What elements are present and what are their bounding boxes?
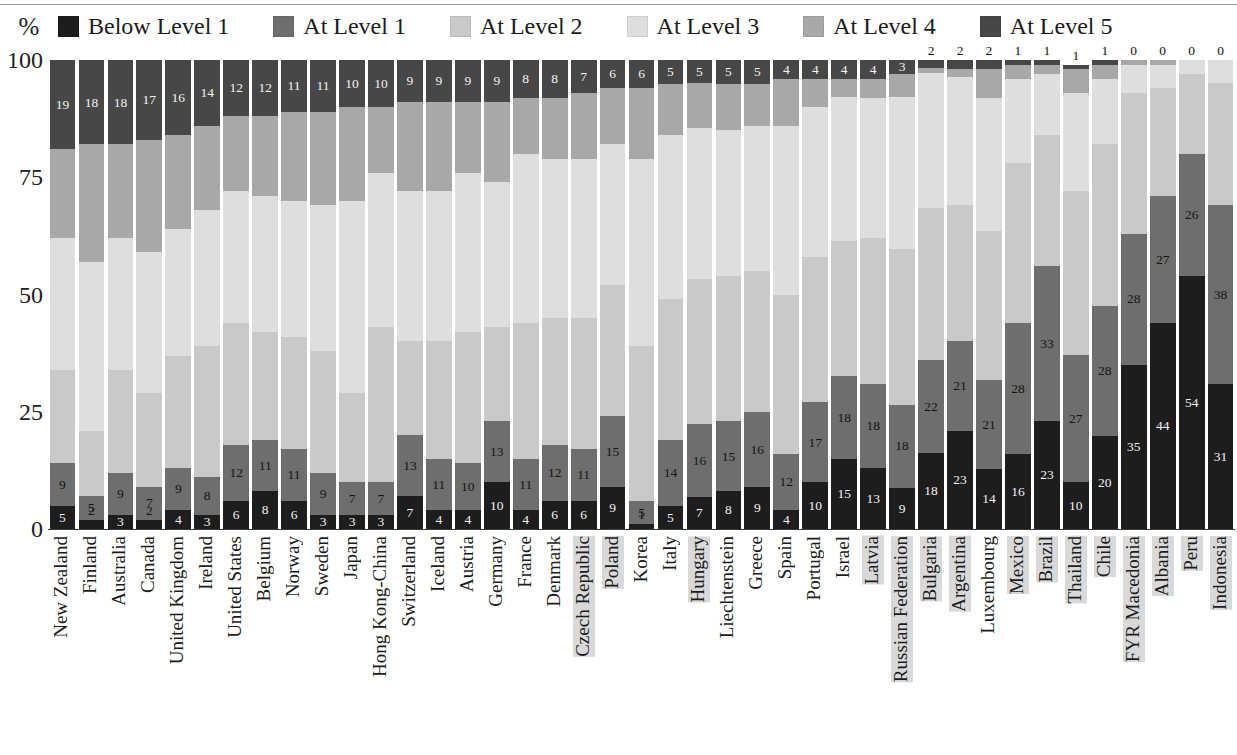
y-axis-tick-100: 100 xyxy=(7,48,43,72)
x-axis-label-cell[interactable]: United States xyxy=(223,534,249,749)
x-axis-label-cell[interactable]: Iceland xyxy=(426,534,452,749)
x-axis-label-cell[interactable]: Czech Republic xyxy=(571,534,597,749)
bar-column[interactable]: 9104 xyxy=(455,60,481,529)
x-axis-label-cell[interactable]: Mexico xyxy=(1005,534,1031,749)
bar-column[interactable]: 5145 xyxy=(658,60,684,529)
bar-column[interactable]: 6159 xyxy=(600,60,626,529)
bar-segment xyxy=(831,97,857,241)
bar-segment: 12 xyxy=(223,445,249,501)
bar-column[interactable]: 1995 xyxy=(50,60,76,529)
bar-segment xyxy=(629,159,655,347)
bar-column[interactable]: 12816 xyxy=(1005,60,1031,529)
bar-column[interactable]: 4124 xyxy=(773,60,799,529)
bar-value-label: 7 xyxy=(378,492,385,506)
bar-column[interactable]: 5169 xyxy=(744,60,770,529)
bar-column[interactable]: 22218 xyxy=(918,60,944,529)
x-axis-label-cell[interactable]: Argentina xyxy=(947,534,973,749)
x-axis-label-cell[interactable]: Albania xyxy=(1150,534,1176,749)
x-axis-label-cell[interactable]: Thailand xyxy=(1063,534,1089,749)
x-axis-label-text: Russian Federation xyxy=(891,536,913,682)
bar-column[interactable]: 9137 xyxy=(397,60,423,529)
bar-column[interactable]: 12118 xyxy=(252,60,278,529)
bar-column[interactable]: 02654 xyxy=(1179,60,1205,529)
bar-column[interactable]: 22114 xyxy=(976,60,1002,529)
legend-item-at-level-1[interactable]: At Level 1 xyxy=(273,14,406,38)
bar-segment: 12 xyxy=(223,60,249,116)
x-axis-label-cell[interactable]: New Zealand xyxy=(50,534,76,749)
bar-segment: 14 xyxy=(658,440,684,506)
bar-column[interactable]: 13323 xyxy=(1034,60,1060,529)
bar-column[interactable]: 12710 xyxy=(1063,60,1089,529)
bar-column[interactable]: 7116 xyxy=(571,60,597,529)
bar-column[interactable]: 9114 xyxy=(426,60,452,529)
legend-item-at-level-3[interactable]: At Level 3 xyxy=(627,14,760,38)
bar-column[interactable]: 651 xyxy=(629,60,655,529)
bar-column[interactable]: 41710 xyxy=(802,60,828,529)
bar-column[interactable]: 03831 xyxy=(1208,60,1234,529)
bar-column[interactable]: 1193 xyxy=(310,60,336,529)
x-axis-label-cell[interactable]: Poland xyxy=(600,534,626,749)
x-axis-label-cell[interactable]: Norway xyxy=(281,534,307,749)
x-axis-label-cell[interactable]: Germany xyxy=(484,534,510,749)
legend-item-below-level-1[interactable]: Below Level 1 xyxy=(58,14,229,38)
bar-value-label: 23 xyxy=(1040,468,1054,482)
x-axis-label-cell[interactable]: United Kingdom xyxy=(165,534,191,749)
bar-column[interactable]: 1893 xyxy=(108,60,134,529)
x-axis-label-cell[interactable]: Belgium xyxy=(252,534,278,749)
legend-item-at-level-2[interactable]: At Level 2 xyxy=(450,14,583,38)
x-axis-label-cell[interactable]: Luxembourg xyxy=(976,534,1002,749)
x-axis-label-cell[interactable]: Finland xyxy=(79,534,105,749)
x-axis-label-cell[interactable]: Switzerland xyxy=(397,534,423,749)
x-axis-label-cell[interactable]: Korea xyxy=(629,534,655,749)
x-axis-label-cell[interactable]: FYR Macedonia xyxy=(1121,534,1147,749)
bar-column[interactable]: 22123 xyxy=(947,60,973,529)
x-axis-label-cell[interactable]: Russian Federation xyxy=(889,534,915,749)
bar-column[interactable]: 1073 xyxy=(339,60,365,529)
bar-column[interactable]: 1772 xyxy=(136,60,162,529)
bar-column[interactable]: 8114 xyxy=(513,60,539,529)
x-axis-label-cell[interactable]: France xyxy=(513,534,539,749)
x-axis-label-cell[interactable]: Chile xyxy=(1092,534,1118,749)
x-axis-label-cell[interactable]: Indonesia xyxy=(1208,534,1234,749)
x-axis-label-text: Finland xyxy=(80,536,102,594)
x-axis-label-cell[interactable]: Ireland xyxy=(194,534,220,749)
x-axis-label-cell[interactable]: Australia xyxy=(108,534,134,749)
bar-column[interactable]: 41815 xyxy=(831,60,857,529)
x-axis-label-cell[interactable]: Peru xyxy=(1179,534,1205,749)
bar-column[interactable]: 12820 xyxy=(1092,60,1118,529)
x-axis-label-cell[interactable]: Spain xyxy=(773,534,799,749)
bar-column[interactable]: 02835 xyxy=(1121,60,1147,529)
bar-column[interactable]: 1483 xyxy=(194,60,220,529)
x-axis-label-cell[interactable]: Greece xyxy=(744,534,770,749)
bar-column[interactable]: 12126 xyxy=(223,60,249,529)
bar-column[interactable]: 8126 xyxy=(542,60,568,529)
bar-column[interactable]: 11116 xyxy=(281,60,307,529)
bar-column[interactable]: 3189 xyxy=(889,60,915,529)
x-axis-label-cell[interactable]: Bulgaria xyxy=(918,534,944,749)
x-axis-label-cell[interactable]: Denmark xyxy=(542,534,568,749)
x-axis-label-cell[interactable]: Latvia xyxy=(860,534,886,749)
bar-column[interactable]: 5158 xyxy=(716,60,742,529)
bar-column[interactable]: 91310 xyxy=(484,60,510,529)
bar-column[interactable]: 1073 xyxy=(368,60,394,529)
legend-swatch-icon xyxy=(450,16,471,37)
x-axis-label-cell[interactable]: Sweden xyxy=(310,534,336,749)
x-axis-label-cell[interactable]: Hong Kong-China xyxy=(368,534,394,749)
x-axis-label-cell[interactable]: Hungary xyxy=(687,534,713,749)
x-axis-label-cell[interactable]: Canada xyxy=(136,534,162,749)
bar-column[interactable]: 41813 xyxy=(860,60,886,529)
x-axis-label-cell[interactable]: Portugal xyxy=(802,534,828,749)
x-axis-label-cell[interactable]: Liechtenstein xyxy=(716,534,742,749)
bar-column[interactable]: 5167 xyxy=(687,60,713,529)
legend-item-at-level-4[interactable]: At Level 4 xyxy=(803,14,936,38)
x-axis-label-cell[interactable]: Israel xyxy=(831,534,857,749)
x-axis-label-cell[interactable]: Austria xyxy=(455,534,481,749)
bar-column[interactable]: 02744 xyxy=(1150,60,1176,529)
bar-segment: 21 xyxy=(947,341,973,431)
x-axis-label-cell[interactable]: Japan xyxy=(339,534,365,749)
x-axis-label-cell[interactable]: Brazil xyxy=(1034,534,1060,749)
legend-item-at-level-5[interactable]: At Level 5 xyxy=(980,14,1113,38)
bar-column[interactable]: 1852 xyxy=(79,60,105,529)
x-axis-label-cell[interactable]: Italy xyxy=(658,534,684,749)
bar-column[interactable]: 1694 xyxy=(165,60,191,529)
